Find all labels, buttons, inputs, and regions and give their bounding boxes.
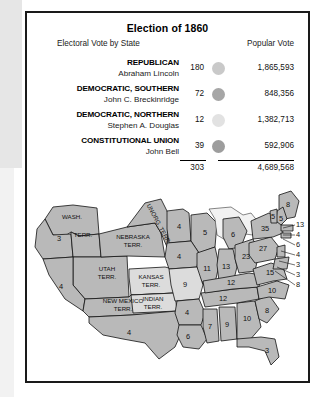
map-number-wisconsin: 5	[203, 228, 207, 237]
map-number-arkansas: 4	[185, 308, 189, 317]
candidate-name: John C. Breckinridge	[27, 95, 179, 106]
map-label-utah-territory: UTAH	[99, 265, 115, 272]
candidate-name: John Bell	[27, 147, 179, 158]
popular-vote-value: 848,356	[264, 89, 294, 98]
electoral-vote-value: 72	[182, 89, 204, 98]
party-color-swatch	[212, 88, 225, 101]
party-name: DEMOCRATIC, SOUTHERN	[27, 84, 179, 95]
electoral-total-value: 303	[180, 163, 204, 172]
state-florida	[237, 337, 279, 365]
electoral-vote-header: Electoral Vote by State	[57, 39, 140, 48]
candidate-name: Abraham Lincoln	[27, 69, 179, 80]
map-number-missouri: 9	[183, 280, 187, 289]
map-number-kentucky: 12	[227, 278, 235, 287]
popular-vote-header: Popular Vote	[247, 39, 294, 48]
map-label-kansas-territory: KANSAS	[138, 273, 163, 280]
party-name: CONSTITUTIONAL UNION	[27, 136, 179, 147]
map-callout-delaware: 3	[296, 260, 300, 269]
map-number-oregon: 3	[57, 234, 61, 243]
popular-total-value: 4,689,568	[258, 163, 294, 172]
map-callout-connecticut: 6	[296, 240, 300, 249]
table-row: CONSTITUTIONAL UNION John Bell 39 592,90…	[27, 136, 308, 162]
popular-vote-value: 1,865,593	[258, 63, 294, 72]
electoral-vote-value: 180	[182, 63, 204, 72]
map-number-california: 4	[59, 282, 63, 291]
map-callout-new-jersey: 4	[296, 250, 300, 259]
state-connecticut-rhodeisland	[281, 233, 291, 238]
map-callout-delaware-2: 3	[296, 270, 300, 279]
results-table: REPUBLICAN Abraham Lincoln 180 1,865,593…	[27, 58, 308, 180]
map-number-maine: 8	[286, 200, 290, 209]
party-color-swatch	[212, 140, 225, 153]
table-row: REPUBLICAN Abraham Lincoln 180 1,865,593	[27, 58, 308, 84]
map-number-louisiana: 6	[186, 332, 190, 341]
electoral-total-rule	[180, 160, 206, 161]
map-number-north-carolina: 10	[268, 286, 276, 295]
map-number-georgia: 10	[243, 314, 251, 323]
state-arkansas	[175, 299, 205, 325]
map-label-nebraska-territory: NEBRASKA	[116, 233, 151, 240]
popular-vote-value: 592,906	[264, 141, 294, 150]
popular-total-rule	[218, 160, 294, 161]
party-color-swatch	[212, 114, 225, 127]
map-number-michigan: 6	[231, 230, 235, 239]
state-nebraska-territory	[99, 223, 165, 257]
map-label-indian-territory-2: TERR.	[144, 303, 163, 310]
candidate-name: Stephen A. Douglas	[27, 121, 179, 132]
map-label-kansas-territory-2: TERR.	[142, 281, 161, 288]
map-number-pennsylvania: 27	[259, 244, 267, 253]
map-callout-rhode-island: 4	[296, 230, 300, 239]
map-number-tennessee: 12	[219, 294, 227, 303]
map-number-virginia: 15	[266, 268, 274, 277]
map-number-minnesota: 4	[177, 222, 181, 231]
map-number-illinois: 11	[203, 264, 211, 273]
state-iowa	[165, 241, 199, 269]
map-number-texas: 4	[127, 328, 131, 337]
electoral-vote-value: 12	[182, 115, 204, 124]
party-block: REPUBLICAN Abraham Lincoln	[27, 58, 179, 79]
map-label-indian-territory: INDIAN	[143, 295, 164, 302]
map-number-vermont: 5	[271, 212, 275, 221]
map-callout-maryland: 8	[296, 280, 300, 289]
map-number-alabama: 9	[225, 320, 229, 329]
map-label-washington-territory: WASH.	[62, 213, 82, 220]
map-number-mississippi: 7	[208, 322, 212, 331]
election-map: 3 4 4 5 6 4 11 13 23 27 35 8 5 5 15 10 8…	[27, 189, 308, 383]
map-label-new-mexico-territory-2: TERR.	[114, 305, 133, 312]
map-number-south-carolina: 8	[265, 306, 269, 315]
map-number-iowa: 4	[177, 252, 181, 261]
popular-vote-value: 1,382,713	[258, 115, 294, 124]
map-number-florida: 3	[265, 346, 269, 355]
party-name: DEMOCRATIC, NORTHERN	[27, 110, 179, 121]
map-callout-massachusetts: 13	[296, 220, 304, 229]
map-number-indiana: 13	[222, 262, 230, 271]
map-label-new-mexico-territory: NEW MEXICO	[103, 297, 144, 304]
map-number-new-hampshire: 5	[279, 214, 283, 223]
map-label-nebraska-territory-2: TERR.	[124, 241, 143, 248]
electoral-vote-value: 39	[182, 141, 204, 150]
party-color-swatch	[212, 62, 225, 75]
table-row: DEMOCRATIC, SOUTHERN John C. Breckinridg…	[27, 84, 308, 110]
infographic-frame: Election of 1860 Electoral Vote by State…	[25, 11, 310, 383]
table-row: DEMOCRATIC, NORTHERN Stephen A. Douglas …	[27, 110, 308, 136]
map-label-washington-territory-2: TERR.	[74, 231, 93, 238]
page-title: Election of 1860	[27, 22, 308, 34]
state-louisiana	[177, 325, 207, 349]
party-block: DEMOCRATIC, SOUTHERN John C. Breckinridg…	[27, 84, 179, 105]
party-block: DEMOCRATIC, NORTHERN Stephen A. Douglas	[27, 110, 179, 131]
party-name: REPUBLICAN	[27, 58, 179, 69]
totals-row: 303 4,689,568	[27, 160, 308, 180]
map-label-utah-territory-2: TERR.	[98, 273, 117, 280]
map-number-ohio: 23	[242, 252, 250, 261]
party-block: CONSTITUTIONAL UNION John Bell	[27, 136, 179, 157]
scan-edge-shadow	[0, 0, 22, 168]
state-texas	[89, 311, 183, 359]
column-headers: Electoral Vote by State Popular Vote	[27, 39, 308, 55]
map-number-new-york: 35	[261, 224, 269, 233]
us-map-svg: 3 4 4 5 6 4 11 13 23 27 35 8 5 5 15 10 8…	[27, 189, 308, 383]
